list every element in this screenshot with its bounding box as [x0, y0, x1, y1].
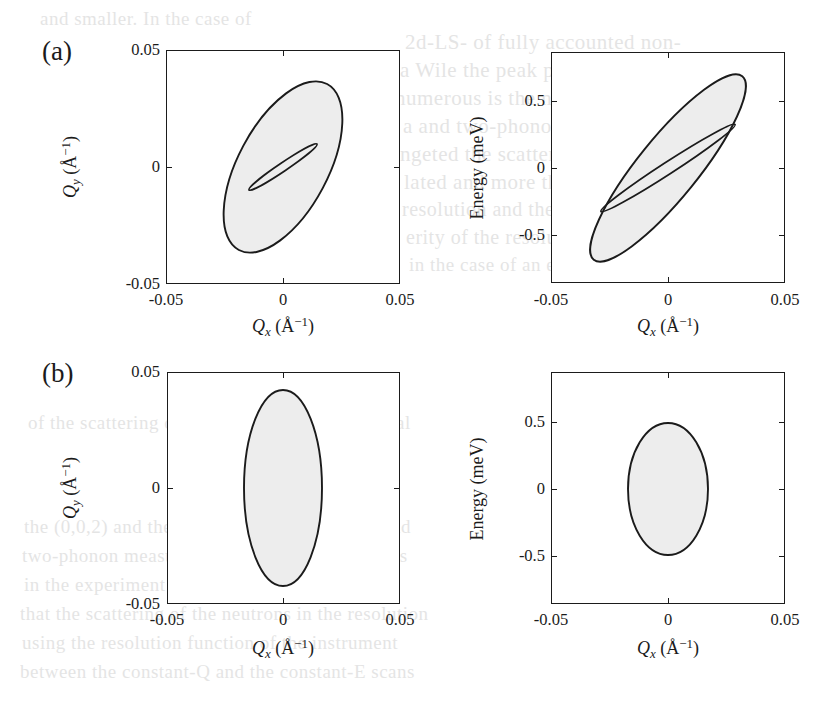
tick-y-neg0.5-right [779, 556, 785, 557]
xaxis-title-var: Q [637, 638, 650, 658]
xtick-label-b-right-2: 0.05 [771, 612, 800, 629]
figure-resolution-ellipsoids: (a) 0.05 0 -0.05 -0.05 0 0.05 Qx (Å−1) Q… [0, 0, 833, 702]
xaxis-title-unit-sup: −1 [679, 636, 693, 651]
tick-y-0-right [779, 489, 785, 490]
xaxis-title-unit-open: (Å [656, 638, 680, 658]
tick-x-top [668, 372, 669, 378]
xtick-label-b-right-1: 0 [664, 612, 672, 629]
xaxis-title-b-right: Qx (Å−1) [637, 638, 699, 661]
ytick-label-b-right-1: 0 [500, 481, 545, 498]
tick-y-0.5-right [779, 422, 785, 423]
tick-x-bottom [668, 598, 669, 604]
xaxis-title-unit-close: ) [693, 638, 699, 658]
tick-y-neg0.5-left [551, 556, 557, 557]
yaxis-title-b-right: Energy (meV) [468, 437, 486, 540]
ytick-label-b-right-2: -0.5 [494, 548, 545, 565]
ytick-label-b-right-0: 0.5 [500, 414, 545, 431]
tick-y-0.5-left [551, 422, 557, 423]
tick-y-0-left [551, 489, 557, 490]
plot-b-right-ellipses [0, 0, 833, 702]
xtick-label-b-right-0: -0.05 [534, 612, 568, 629]
resolution-ellipse [628, 423, 708, 555]
